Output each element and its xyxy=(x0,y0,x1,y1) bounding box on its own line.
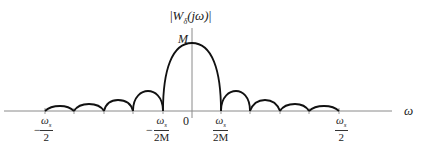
tick-numerator: ωs xyxy=(335,115,348,130)
w-symbol: W xyxy=(173,8,184,23)
omega-subscript: s xyxy=(344,121,347,129)
tick-neg-half: ωs 2 xyxy=(40,115,53,143)
omega-subscript: s xyxy=(49,121,52,129)
tick-denominator: 2 xyxy=(339,131,345,143)
omega-symbol: ω xyxy=(215,114,223,126)
origin-label: 0 xyxy=(183,115,189,127)
tick-numerator: ωs xyxy=(214,115,227,130)
tick-denominator: 2M xyxy=(154,131,169,143)
tick-numerator: ωs xyxy=(40,115,53,130)
w-argument: (jω) xyxy=(187,8,208,23)
tick-neg-2m-sign: − xyxy=(146,123,153,138)
omega-subscript: s xyxy=(223,121,226,129)
omega-symbol: ω xyxy=(156,114,164,126)
abs-bar-right: | xyxy=(209,8,212,23)
x-axis-label: ω xyxy=(404,104,413,117)
omega-subscript: s xyxy=(164,121,167,129)
y-axis-label: |Wδ(jω)| xyxy=(170,9,211,26)
tick-pos-2m: ωs 2M xyxy=(213,115,228,143)
omega-symbol: ω xyxy=(336,114,344,126)
tick-denominator: 2M xyxy=(213,131,228,143)
peak-label: M xyxy=(178,33,188,45)
tick-neg-2m: ωs 2M xyxy=(154,115,169,143)
tick-pos-half: ωs 2 xyxy=(335,115,348,143)
tick-denominator: 2 xyxy=(44,131,50,143)
tick-numerator: ωs xyxy=(155,115,168,130)
omega-symbol: ω xyxy=(41,114,49,126)
